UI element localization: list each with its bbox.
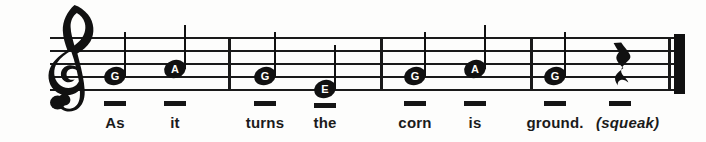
- staff-line-4: [50, 76, 685, 78]
- notehead-letter: G: [254, 67, 276, 85]
- rhythm-dash-1: [104, 101, 126, 106]
- notehead-letter: A: [464, 60, 486, 78]
- lyric-syllable-5: corn: [398, 114, 431, 131]
- notehead-letter: G: [104, 67, 126, 85]
- staff-line-1: [50, 37, 685, 39]
- rhythm-dash-2: [164, 101, 186, 106]
- treble-clef-icon: [38, 2, 110, 114]
- notehead-letter: G: [544, 67, 566, 85]
- staff-line-5: [50, 89, 685, 91]
- rhythm-dash-6: [464, 101, 486, 106]
- rhythm-dash-4: [314, 103, 336, 108]
- rhythm-dash-8: [609, 101, 631, 106]
- final-barline-thick: [674, 34, 685, 94]
- staff-line-3: [50, 63, 685, 65]
- barline-1: [228, 37, 231, 91]
- music-staff-figure: GAGEGAG Asitturnsthecornisground.(squeak…: [0, 0, 706, 142]
- rhythm-dash-5: [404, 101, 426, 106]
- lyric-syllable-1: As: [105, 114, 125, 131]
- rhythm-dash-3: [254, 101, 276, 106]
- staff-line-2: [50, 50, 685, 52]
- lyric-syllable-4: the: [313, 114, 336, 131]
- lyric-syllable-6: is: [469, 114, 482, 131]
- quarter-rest-icon: [611, 41, 637, 87]
- notehead-letter: E: [314, 80, 336, 98]
- final-barline-thin: [668, 37, 671, 91]
- lyric-syllable-2: it: [170, 114, 180, 131]
- barline-2: [380, 37, 383, 91]
- lyric-syllable-3: turns: [246, 114, 285, 131]
- lyric-syllable-7: ground.: [526, 114, 583, 131]
- lyric-syllable-8: (squeak): [596, 114, 659, 131]
- notehead-letter: G: [404, 67, 426, 85]
- rhythm-dash-7: [544, 101, 566, 106]
- notehead-letter: A: [164, 60, 186, 78]
- barline-3: [530, 37, 533, 91]
